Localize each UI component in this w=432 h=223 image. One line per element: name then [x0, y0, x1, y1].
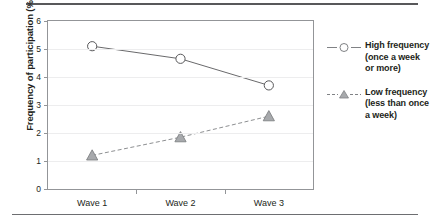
- gridline: [48, 77, 313, 78]
- data-point-open-circle[interactable]: [264, 81, 273, 90]
- y-axis-tick-label: 3: [36, 101, 41, 110]
- legend-label-line: a week): [365, 110, 431, 122]
- data-point-filled-triangle[interactable]: [263, 111, 274, 121]
- y-axis-tick-label: 1: [36, 157, 41, 166]
- plot-area: 0123456Wave 1Wave 2Wave 3: [47, 20, 314, 190]
- legend-entry-high-frequency[interactable]: High frequency (once a week or more): [327, 40, 431, 75]
- data-point-open-circle[interactable]: [176, 54, 185, 63]
- gridline: [48, 49, 313, 50]
- gridline: [48, 133, 313, 134]
- y-axis-tick: [44, 21, 48, 22]
- legend-label-line: (once a week: [365, 52, 431, 64]
- y-axis-tick-label: 5: [36, 45, 41, 54]
- y-axis-tick-label: 2: [36, 129, 41, 138]
- y-axis-tick: [44, 161, 48, 162]
- legend-label-line: or more): [365, 63, 431, 75]
- x-axis-tick-label: Wave 3: [254, 199, 284, 208]
- top-divider-rule: [26, 3, 418, 5]
- x-axis-tick: [136, 189, 137, 194]
- legend: High frequency (once a week or more) Low…: [327, 40, 431, 133]
- x-axis-tick-label: Wave 1: [77, 199, 107, 208]
- y-axis-tick-label: 6: [36, 17, 41, 26]
- x-axis-tick-label: Wave 2: [165, 199, 195, 208]
- series-line: [92, 46, 269, 85]
- figure-container: Frequency of participation (%) 0123456Wa…: [0, 0, 432, 223]
- y-axis-tick: [44, 49, 48, 50]
- x-axis-tick: [225, 189, 226, 194]
- gridline: [48, 105, 313, 106]
- y-axis-tick-label: 4: [36, 73, 41, 82]
- legend-label-line: High frequency: [365, 40, 431, 52]
- open-circle-icon: [327, 42, 361, 53]
- plot-inner: 0123456Wave 1Wave 2Wave 3: [48, 21, 313, 189]
- filled-triangle-icon: [327, 89, 361, 100]
- legend-label-line: Low frequency: [365, 87, 431, 99]
- y-axis-tick: [44, 105, 48, 106]
- gridline: [48, 161, 313, 162]
- bottom-divider-rule: [12, 214, 418, 215]
- legend-label-high-frequency: High frequency (once a week or more): [365, 40, 431, 75]
- y-axis-tick: [44, 133, 48, 134]
- y-axis-tick: [44, 77, 48, 78]
- legend-label-line: (less than once: [365, 98, 431, 110]
- legend-label-low-frequency: Low frequency (less than once a week): [365, 87, 431, 122]
- legend-entry-low-frequency[interactable]: Low frequency (less than once a week): [327, 87, 431, 122]
- y-axis-tick: [44, 189, 48, 190]
- y-axis-tick-label: 0: [36, 185, 41, 194]
